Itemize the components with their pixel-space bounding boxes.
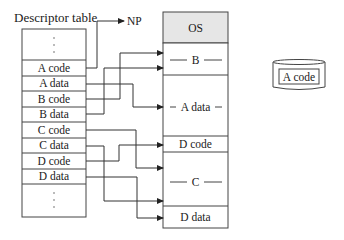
descriptor-table-frame [22, 29, 86, 217]
memory-region-label: D code [179, 138, 212, 150]
memory-region-label: B [192, 54, 200, 66]
descriptor-arrows [86, 21, 163, 218]
disk: A code [273, 60, 325, 90]
physical-memory: OS B A data D code C [163, 12, 228, 228]
row-label: B data [39, 108, 69, 120]
memory-region-label: D data [180, 211, 210, 223]
row-label: D code [38, 155, 71, 167]
row-label: B code [38, 93, 70, 105]
descriptor-table: A code A data B code B data C code C dat… [22, 29, 86, 217]
arrow-a-code-to-np [86, 21, 124, 68]
memory-region-label: OS [188, 22, 203, 34]
memory-region-label: A data [181, 101, 211, 113]
arrow-c-data [86, 146, 163, 201]
row-label: C data [39, 139, 69, 151]
row-label: A data [39, 77, 69, 89]
memory-region-label: C [192, 176, 200, 188]
row-label: D data [39, 170, 69, 182]
memory-region-d-data: D data [180, 211, 210, 223]
arrow-d-code [86, 145, 163, 161]
np-label: NP [127, 15, 142, 27]
arrow-a-data [86, 84, 163, 107]
disk-label: A code [283, 71, 315, 83]
row-label: C code [38, 124, 70, 136]
segmentation-diagram: Descriptor table A code A data B code [0, 0, 344, 240]
arrow-b-code [86, 53, 163, 99]
arrow-d-data [86, 177, 163, 218]
row-label: A code [38, 62, 70, 74]
disk-top [273, 60, 325, 65]
arrow-c-code [86, 130, 163, 168]
descriptor-table-title: Descriptor table [14, 10, 98, 25]
